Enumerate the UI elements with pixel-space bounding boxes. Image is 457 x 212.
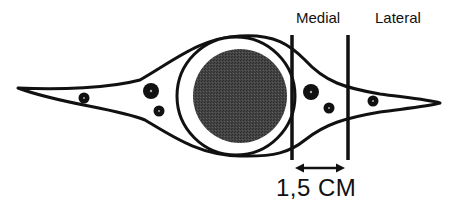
medial-label: Medial bbox=[296, 10, 340, 25]
measurement-arrow bbox=[295, 164, 345, 173]
lateral-label: Lateral bbox=[375, 10, 421, 25]
dot bbox=[303, 84, 319, 100]
dot bbox=[368, 96, 379, 107]
dot bbox=[324, 103, 335, 114]
dot bbox=[79, 93, 90, 104]
core-circle bbox=[193, 49, 287, 143]
dot bbox=[154, 106, 165, 117]
diagram-canvas bbox=[0, 0, 457, 212]
dot bbox=[143, 83, 159, 99]
measurement-label: 1,5 CM bbox=[276, 176, 356, 200]
